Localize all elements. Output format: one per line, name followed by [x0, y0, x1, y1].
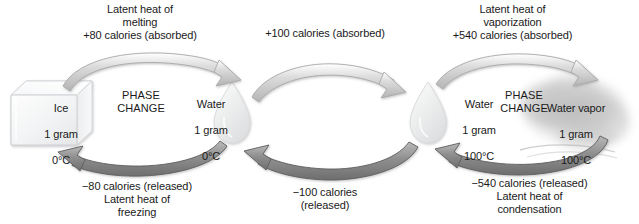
arrow-cooling-water — [244, 142, 418, 180]
state-water-hot-temp: 100°C — [443, 150, 515, 163]
water-droplet-icon-hot — [410, 82, 446, 143]
phase-change-diagram: Latent heat of melting +80 calories (abs… — [0, 0, 639, 224]
state-label-water-cold: Water 1 gram 0°C — [175, 85, 247, 176]
arrow-heating-water — [252, 64, 406, 102]
phase-change-label-right: PHASE CHANGE — [489, 89, 559, 115]
state-label-ice: Ice 1 gram 0°C — [30, 89, 92, 180]
state-vapor-temp: 100°C — [528, 154, 624, 167]
caption-vaporization: Latent heat of vaporization +540 calorie… — [425, 3, 600, 42]
caption-freezing: −80 calories (released) Latent heat of f… — [57, 180, 217, 219]
state-water-cold-mass: 1 gram — [175, 124, 247, 137]
state-water-cold-temp: 0°C — [175, 150, 247, 163]
state-ice-mass: 1 gram — [30, 128, 92, 141]
caption-melting: Latent heat of melting +80 calories (abs… — [60, 3, 220, 42]
state-ice-temp: 0°C — [30, 154, 92, 167]
state-vapor-mass: 1 gram — [528, 128, 624, 141]
state-ice-name: Ice — [30, 102, 92, 115]
state-water-cold-name: Water — [175, 98, 247, 111]
caption-cooling-water: −100 calories (released) — [250, 186, 400, 212]
arrow-vaporization — [436, 54, 598, 89]
phase-change-label-left: PHASE CHANGE — [106, 89, 176, 115]
caption-heating-water: +100 calories (absorbed) — [245, 27, 405, 40]
caption-condensation: −540 calories (released) Latent heat of … — [447, 177, 612, 216]
state-water-hot-mass: 1 gram — [443, 124, 515, 137]
